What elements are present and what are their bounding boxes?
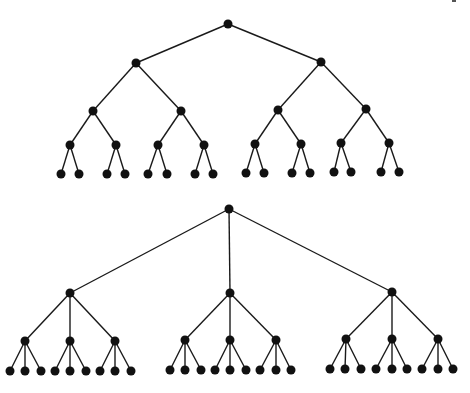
tree-edge: [100, 341, 115, 371]
tree-edge: [70, 293, 115, 341]
tree-edge: [107, 145, 116, 174]
tree-edge: [345, 339, 346, 369]
leaf-node: [57, 170, 66, 179]
tree-edge: [93, 63, 136, 111]
tree-edge: [70, 111, 93, 145]
tree-edge: [229, 209, 392, 292]
tree-edge: [278, 62, 321, 110]
leaf-node: [357, 365, 366, 374]
leaf-node: [372, 365, 381, 374]
internal-node: [181, 336, 190, 345]
tree-edge: [55, 341, 70, 371]
internal-node: [385, 139, 394, 148]
internal-node: [274, 106, 283, 115]
tree-edge: [116, 145, 125, 174]
internal-node: [388, 288, 397, 297]
leaf-node: [191, 170, 200, 179]
tree-edge: [229, 209, 230, 293]
leaf-node: [288, 169, 297, 178]
internal-node: [251, 140, 260, 149]
internal-node: [388, 335, 397, 344]
tree-edge: [136, 24, 228, 63]
leaf-node: [418, 365, 427, 374]
internal-node: [342, 335, 351, 344]
tree-edge: [185, 293, 230, 340]
leaf-node: [66, 367, 75, 376]
tree-edge: [392, 339, 407, 369]
binary-tree-nodes: [57, 20, 404, 179]
tree-edge: [181, 111, 204, 145]
tree-edge: [195, 145, 204, 174]
tree-diagram-canvas: [0, 0, 470, 393]
leaf-node: [306, 169, 315, 178]
internal-node: [317, 58, 326, 67]
tree-edge: [341, 143, 351, 172]
internal-node: [226, 289, 235, 298]
internal-node: [226, 336, 235, 345]
internal-node: [362, 105, 371, 114]
tree-edge: [10, 341, 25, 371]
tree-edge: [438, 339, 453, 369]
tree-edge: [255, 144, 264, 173]
leaf-node: [341, 365, 350, 374]
internal-node: [272, 336, 281, 345]
internal-node: [434, 335, 443, 344]
tree-edge: [230, 340, 246, 370]
leaf-node: [395, 168, 404, 177]
tree-edge: [346, 292, 392, 339]
leaf-node: [166, 366, 175, 375]
tree-edge: [366, 109, 389, 143]
tree-edge: [25, 341, 41, 371]
leaf-node: [197, 366, 206, 375]
internal-node: [89, 107, 98, 116]
leaf-node: [127, 367, 136, 376]
leaf-node: [449, 365, 458, 374]
leaf-node: [181, 366, 190, 375]
leaf-node: [51, 367, 60, 376]
leaf-node: [347, 168, 356, 177]
tree-edge: [215, 340, 230, 370]
internal-node: [177, 107, 186, 116]
leaf-node: [242, 169, 251, 178]
leaf-node: [209, 170, 218, 179]
tree-edge: [70, 209, 229, 293]
tree-edge: [389, 143, 399, 172]
leaf-node: [377, 168, 386, 177]
root-node: [225, 205, 234, 214]
leaf-node: [121, 170, 130, 179]
tree-edge: [278, 110, 301, 144]
tree-edge: [301, 144, 310, 173]
leaf-node: [326, 365, 335, 374]
internal-node: [200, 141, 209, 150]
tree-edge: [70, 145, 79, 174]
leaf-node: [242, 366, 251, 375]
leaf-node: [287, 366, 296, 375]
leaf-node: [388, 365, 397, 374]
internal-node: [21, 337, 30, 346]
leaf-node: [96, 367, 105, 376]
tree-edge: [255, 110, 278, 144]
tree-edge: [158, 111, 181, 145]
tree-edge: [228, 24, 321, 62]
tree-edge: [170, 340, 185, 370]
internal-node: [132, 59, 141, 68]
leaf-node: [403, 365, 412, 374]
leaf-node: [37, 367, 46, 376]
tree-edge: [292, 144, 301, 173]
internal-node: [66, 141, 75, 150]
tree-edge: [392, 292, 438, 339]
tree-edge: [158, 145, 167, 174]
tree-edge: [230, 293, 276, 340]
leaf-node: [272, 366, 281, 375]
tree-edge: [136, 63, 181, 111]
tree-edge: [346, 339, 361, 369]
root-node: [224, 20, 233, 29]
tree-edge: [376, 339, 392, 369]
leaf-node: [211, 366, 220, 375]
tree-edge: [70, 341, 86, 371]
internal-node: [337, 139, 346, 148]
tree-nodes: [6, 20, 458, 376]
tree-edge: [93, 111, 116, 145]
scan-artifact: [452, 0, 456, 2]
leaf-node: [256, 366, 265, 375]
